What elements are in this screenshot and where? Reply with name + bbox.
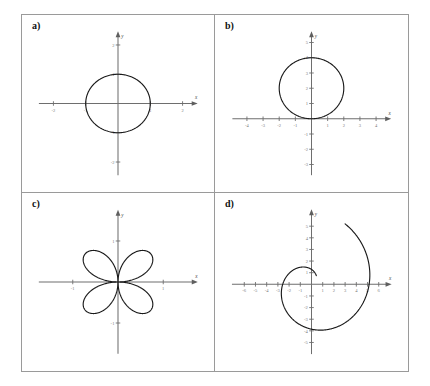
svg-text:-4: -4 xyxy=(245,123,250,128)
svg-text:y: y xyxy=(120,33,124,39)
panel-b-svg: xy-4-3-2-11234-3-2-112345 xyxy=(215,15,408,192)
panel-a: a) xy-2-112-2-112 xyxy=(22,15,215,193)
panel-d-svg: xy-6-5-4-3-2-1123456-5-4-3-2-112345 xyxy=(215,193,408,371)
svg-text:4: 4 xyxy=(355,288,358,293)
svg-text:1: 1 xyxy=(322,288,324,293)
svg-text:4: 4 xyxy=(375,123,378,128)
svg-text:2: 2 xyxy=(343,123,346,128)
svg-text:2: 2 xyxy=(333,288,336,293)
svg-text:y: y xyxy=(314,33,318,39)
svg-text:-3: -3 xyxy=(261,123,266,128)
svg-text:x: x xyxy=(194,273,198,279)
panel-b: b) xy-4-3-2-11234-3-2-112345 xyxy=(215,15,408,193)
svg-text:3: 3 xyxy=(306,71,309,76)
svg-text:3: 3 xyxy=(306,247,309,252)
panel-d: d) xy-6-5-4-3-2-1123456-5-4-3-2-112345 xyxy=(215,193,408,371)
svg-text:-1: -1 xyxy=(298,288,302,293)
panel-a-plot: xy-2-112-2-112 xyxy=(22,15,214,192)
svg-text:3: 3 xyxy=(359,123,362,128)
svg-text:5: 5 xyxy=(306,224,309,229)
svg-text:-1: -1 xyxy=(293,123,297,128)
svg-text:-5: -5 xyxy=(304,340,309,345)
svg-text:1: 1 xyxy=(327,123,329,128)
svg-text:-3: -3 xyxy=(304,162,309,167)
svg-text:2: 2 xyxy=(306,86,309,91)
svg-text:1: 1 xyxy=(306,101,308,106)
svg-text:x: x xyxy=(194,94,198,100)
svg-text:y: y xyxy=(120,212,124,218)
svg-text:-2: -2 xyxy=(111,160,116,165)
svg-text:-2: -2 xyxy=(277,123,282,128)
panel-grid: a) xy-2-112-2-112 b) xy-4-3-2-11234-3-2-… xyxy=(22,15,408,371)
svg-text:1: 1 xyxy=(306,270,308,275)
svg-text:-1: -1 xyxy=(304,132,308,137)
svg-text:-3: -3 xyxy=(276,288,281,293)
panel-b-plot: xy-4-3-2-11234-3-2-112345 xyxy=(215,15,408,192)
svg-text:3: 3 xyxy=(344,288,347,293)
svg-text:5: 5 xyxy=(306,40,309,45)
svg-text:-1: -1 xyxy=(304,294,308,299)
svg-text:y: y xyxy=(314,211,318,217)
svg-text:-1: -1 xyxy=(71,286,75,291)
svg-text:-4: -4 xyxy=(265,288,270,293)
svg-text:-1: -1 xyxy=(111,321,115,326)
svg-text:-2: -2 xyxy=(304,305,309,310)
svg-text:-3: -3 xyxy=(304,317,309,322)
svg-text:-2: -2 xyxy=(52,108,57,113)
svg-text:x: x xyxy=(388,275,392,281)
svg-text:1: 1 xyxy=(162,286,164,291)
svg-text:4: 4 xyxy=(306,236,309,241)
svg-text:-5: -5 xyxy=(254,288,259,293)
panel-a-svg: xy-2-112-2-112 xyxy=(22,15,214,192)
panel-c: c) xy-11-11 xyxy=(22,193,215,371)
svg-text:2: 2 xyxy=(181,108,184,113)
svg-text:-4: -4 xyxy=(304,329,309,334)
panel-d-curve-spiral xyxy=(281,224,370,330)
svg-text:x: x xyxy=(388,110,392,116)
svg-text:6: 6 xyxy=(378,288,381,293)
svg-text:-2: -2 xyxy=(304,147,309,152)
panel-c-plot: xy-11-11 xyxy=(22,193,214,371)
svg-text:2: 2 xyxy=(112,43,115,48)
panel-a-axes: xy-2-112-2-112 xyxy=(39,31,198,175)
svg-text:-2: -2 xyxy=(287,288,292,293)
svg-text:-6: -6 xyxy=(242,288,247,293)
panel-b-axes: xy-4-3-2-11234-3-2-112345 xyxy=(232,31,391,175)
panel-d-plot: xy-6-5-4-3-2-1123456-5-4-3-2-112345 xyxy=(215,193,408,371)
svg-text:2: 2 xyxy=(306,259,309,264)
panel-c-svg: xy-11-11 xyxy=(22,193,214,371)
panel-d-axes: xy-6-5-4-3-2-1123456-5-4-3-2-112345 xyxy=(232,209,392,354)
figure-panel-grid: a) xy-2-112-2-112 b) xy-4-3-2-11234-3-2-… xyxy=(21,14,409,372)
svg-text:1: 1 xyxy=(112,239,114,244)
